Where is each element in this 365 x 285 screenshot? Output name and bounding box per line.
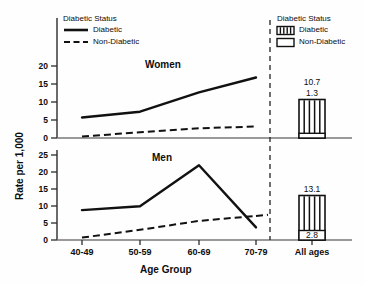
- x-axis-title: Age Group: [140, 265, 192, 275]
- men-ytick-5: 5: [20, 219, 48, 228]
- legend-empty-box-icon: [277, 39, 294, 47]
- women-ytick-10: 10: [20, 98, 48, 107]
- line-legend-item-diabetic: Diabetic: [93, 26, 122, 34]
- men-bar-diabetic-value: 13.1: [297, 185, 327, 194]
- men-non-diabetic-line: [82, 216, 256, 238]
- women-bar-non-diabetic: [299, 133, 325, 138]
- men-ytick-15: 15: [20, 185, 48, 194]
- women-panel-title: Women: [145, 60, 181, 70]
- men-non-diabetic-line-tail: [256, 215, 268, 216]
- women-ytick-15: 15: [20, 80, 48, 89]
- x-tick-label-all-ages: All ages: [290, 248, 334, 257]
- line-legend-title: Diabetic Status: [63, 15, 117, 23]
- bar-legend-item-non-diabetic: Non-Diabetic: [299, 38, 345, 46]
- bar-legend-title: Diabetic Status: [277, 15, 331, 23]
- women-bar-non-diabetic-value: 1.3: [297, 89, 327, 98]
- women-ytick-5: 5: [20, 116, 48, 125]
- men-panel-title: Men: [152, 153, 172, 163]
- men-bar-non-diabetic-value: 2.8: [297, 231, 327, 240]
- men-ytick-10: 10: [20, 202, 48, 211]
- x-tick-label-50-59: 50-59: [120, 248, 160, 257]
- women-ytick-20: 20: [20, 62, 48, 71]
- legend-striped-box-icon: [277, 27, 294, 35]
- women-bar-group: [299, 100, 325, 139]
- men-ytick-20: 20: [20, 168, 48, 177]
- x-tick-label-70-79: 70-79: [236, 248, 276, 257]
- women-ytick-0: 0: [20, 134, 48, 143]
- x-tick-label-40-49: 40-49: [62, 248, 102, 257]
- chart-figure: Rate per 1,000: [0, 0, 365, 285]
- x-tick-label-60-69: 60-69: [179, 248, 219, 257]
- women-bar-diabetic-value: 10.7: [297, 78, 327, 87]
- men-ytick-25: 25: [20, 151, 48, 160]
- women-bar-diabetic: [299, 100, 325, 139]
- women-diabetic-line: [82, 78, 256, 118]
- women-non-diabetic-line: [82, 127, 256, 137]
- bar-legend-item-diabetic: Diabetic: [299, 26, 328, 34]
- men-ytick-0: 0: [20, 236, 48, 245]
- line-legend-item-non-diabetic: Non-Diabetic: [93, 38, 139, 46]
